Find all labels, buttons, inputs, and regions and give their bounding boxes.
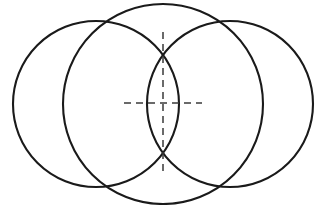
geometry-diagram (0, 0, 327, 205)
figure-container (0, 0, 327, 205)
